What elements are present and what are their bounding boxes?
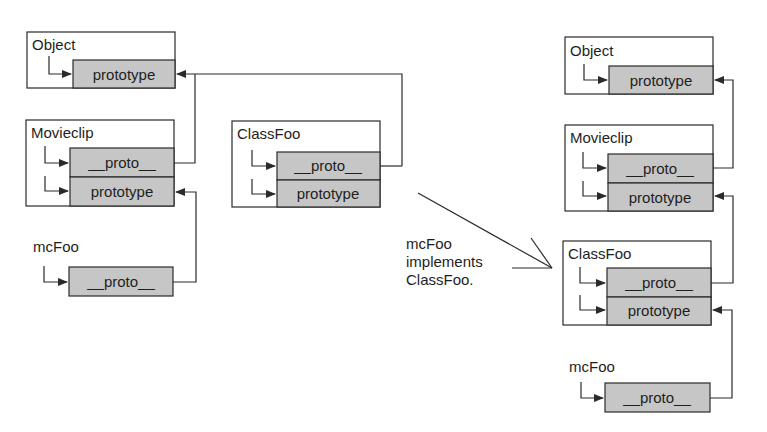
left-movieclip-prototype-label: prototype [91, 183, 154, 200]
left-object-prototype-label: prototype [93, 66, 156, 83]
transition-arrowhead-top [531, 238, 552, 268]
left-classfoo-title: ClassFoo [237, 125, 300, 142]
left-classfoo-prototype-label: prototype [297, 185, 360, 202]
right-mcfoo-to-classfoo-link [710, 310, 732, 398]
right-object-node: Object prototype [565, 37, 713, 94]
left-object-title: Object [32, 36, 76, 53]
right-mcfoo-title: mcFoo [569, 358, 615, 375]
transition-note-line-1: mcFoo [406, 235, 452, 252]
left-movieclip-proto-label: __proto__ [87, 154, 156, 171]
right-classfoo-prototype-label: prototype [628, 302, 691, 319]
left-object-node: Object prototype [27, 32, 175, 88]
right-movieclip-node: Movieclip __proto__ prototype [565, 125, 713, 211]
left-mcfoo-title: mcFoo [33, 238, 79, 255]
left-mcfoo-node: mcFoo __proto__ [33, 238, 173, 296]
right-mcfoo-node: mcFoo __proto__ [569, 358, 710, 412]
left-mcfoo-proto-link [173, 192, 196, 282]
right-classfoo-title: ClassFoo [568, 245, 631, 262]
right-classfoo-proto-label: __proto__ [624, 274, 693, 291]
prototype-chain-diagram: Object prototype Movieclip __proto__ pro… [0, 0, 767, 432]
left-mcfoo-proto-label: __proto__ [86, 273, 155, 290]
right-movieclip-prototype-label: prototype [629, 189, 692, 206]
right-object-title: Object [570, 42, 614, 59]
left-classfoo-node: ClassFoo __proto__ prototype [232, 121, 380, 207]
left-mcfoo-arrow-icon [44, 266, 67, 282]
right-movieclip-proto-label: __proto__ [625, 160, 694, 177]
right-object-prototype-label: prototype [630, 72, 693, 89]
left-classfoo-proto-label: __proto__ [293, 157, 362, 174]
right-mcfoo-proto-label: __proto__ [622, 389, 691, 406]
transition-note-line-3: ClassFoo. [406, 271, 474, 288]
left-movieclip-proto-link [174, 74, 195, 163]
right-movieclip-title: Movieclip [570, 129, 633, 146]
left-movieclip-title: Movieclip [31, 124, 94, 141]
left-movieclip-node: Movieclip __proto__ prototype [26, 120, 174, 206]
right-movieclip-to-object-link [713, 80, 733, 168]
transition-note: mcFoo implements ClassFoo. [406, 235, 483, 288]
right-classfoo-to-movieclip-link [711, 196, 733, 283]
right-mcfoo-arrow-icon [581, 382, 603, 398]
transition-note-line-2: implements [406, 253, 483, 270]
right-classfoo-node: ClassFoo __proto__ prototype [563, 241, 711, 325]
